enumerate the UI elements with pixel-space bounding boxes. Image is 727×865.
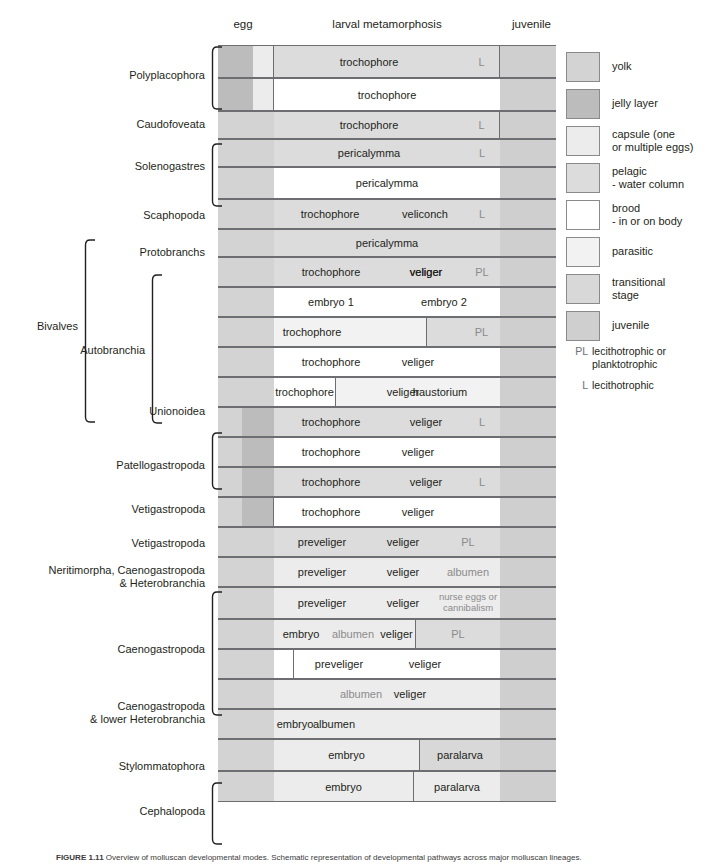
legend-item-pelagic: pelagic - water column: [566, 163, 726, 193]
chart-segment-yolk: [218, 111, 274, 139]
chart-segment-yolk: [218, 771, 274, 802]
chart-segment-capsule: albumen: [274, 679, 500, 709]
chart-segment-juvenile: [500, 407, 556, 437]
chart-segment-yolk: [218, 229, 274, 257]
chart-segment-pelagic: L: [464, 407, 500, 437]
chart-segment-jelly: [218, 78, 253, 111]
segment-label: PL: [464, 266, 500, 279]
chart-row: trochophore: [218, 78, 556, 111]
chart-segment-capsule: veliger: [378, 619, 416, 649]
segment-label: embryo 2: [388, 296, 500, 309]
segment-label: veliger: [362, 446, 474, 459]
chart-row: trochophoreL: [218, 111, 556, 139]
chart-segment-yolk: [218, 527, 274, 557]
legend-label-yolk: yolk: [612, 60, 632, 73]
legend-swatch-pelagic: [566, 163, 600, 193]
chart-segment-pelagic: pericalymma: [274, 139, 464, 167]
chart-segment-pelagic: PL: [464, 257, 500, 287]
legend-label-juvenile: juvenile: [612, 319, 649, 332]
taxon-bracket: [84, 239, 95, 423]
chart-segment-pelagic: pericalymma: [274, 229, 500, 257]
chart-segment-juvenile: [500, 679, 556, 709]
development-chart: trochophoreLtrochophoretrochophoreLperic…: [218, 45, 556, 802]
taxon-label: Vetigastropoda: [0, 537, 205, 550]
chart-row: embryoalbumenveligerPL: [218, 619, 556, 649]
segment-label: trochophore: [274, 416, 388, 429]
phase-label-larval: larval metamorphosis: [273, 18, 501, 30]
chart-segment-yolk: [218, 199, 274, 229]
legend-swatch-capsule: [566, 126, 600, 156]
chart-segment-yolk: [218, 619, 274, 649]
abbreviation-key: PL: [566, 345, 588, 357]
chart-segment-juvenile: [500, 111, 556, 139]
chart-segment-juvenile: [500, 437, 556, 467]
taxon-label: Caenogastropoda & lower Heterobranchia: [0, 700, 205, 726]
chart-segment-pelagic: PL: [426, 317, 500, 347]
segment-label: trochophore: [236, 326, 388, 339]
chart-segment-pelagic: L: [464, 111, 500, 139]
segment-label: trochophore: [274, 208, 386, 221]
chart-segment-capsule: albumen: [436, 557, 500, 587]
segment-label: trochophore: [274, 55, 464, 68]
segment-label: embryo: [274, 628, 328, 641]
chart-segment-yolk: [218, 587, 274, 619]
chart-segment-juvenile: [500, 199, 556, 229]
chart-segment-pelagic: trochophore: [274, 467, 388, 497]
chart-segment-capsule: embryo: [274, 709, 500, 739]
chart-segment-juvenile: [500, 78, 556, 111]
chart-segment-capsule: veliger: [370, 557, 436, 587]
segment-label: trochophore: [274, 386, 335, 399]
segment-label: L: [464, 476, 500, 489]
segment-label: paralarva: [414, 780, 500, 793]
chart-segment-pelagic: veliger: [388, 467, 464, 497]
chart-row: trochophorehaustoriumveliger: [218, 377, 556, 407]
abbreviation-PL: PLlecithotrophic or planktotrophic: [566, 345, 726, 371]
chart-row: embryo 1embryo 2: [218, 287, 556, 317]
chart-segment-pelagic: trochophore: [274, 407, 388, 437]
chart-segment-jelly: [242, 467, 274, 497]
chart-segment-capsule: embryo: [274, 739, 420, 771]
chart-segment-pelagic: PL: [416, 619, 500, 649]
taxon-label: Autobranchia: [0, 344, 145, 357]
chart-segment-yolk: [218, 557, 274, 587]
chart-segment-capsule: embryo: [274, 619, 328, 649]
segment-label: veliger: [370, 566, 436, 579]
chart-segment-brood: trochophore: [274, 377, 336, 407]
chart-segment-juvenile: [500, 45, 556, 78]
chart-segment-capsule: embryo: [274, 771, 414, 802]
chart-segment-jelly: [242, 437, 274, 467]
chart-segment-pelagic: L: [464, 467, 500, 497]
chart-row: trochophoreL: [218, 45, 556, 78]
chart-segment-juvenile: [500, 557, 556, 587]
chart-row: embryoalbumen: [218, 709, 556, 739]
chart-segment-juvenile: [500, 229, 556, 257]
chart-row: trochophoreveligerL: [218, 407, 556, 437]
legend-swatch-parasitic: [566, 237, 600, 267]
abbreviation-key: L: [566, 379, 588, 391]
chart-segment-brood: pericalymma: [274, 167, 500, 199]
chart-row: trochophoreveligerPLveliger: [218, 257, 556, 287]
taxon-bracket: [211, 782, 222, 845]
chart-segment-pelagic: preveliger: [274, 527, 370, 557]
taxon-bracket: [211, 46, 222, 110]
segment-label: haustorium: [358, 386, 522, 399]
chart-segment-pelagic: trochophore: [274, 45, 464, 78]
chart-row: trochophoreveliger: [218, 497, 556, 527]
phase-header: egglarval metamorphosisjuvenile: [215, 18, 560, 36]
chart-segment-parasitic: haustorium: [336, 377, 500, 407]
segment-label: trochophore: [274, 476, 388, 489]
chart-segment-brood: embryo 2: [388, 287, 500, 317]
segment-label: embryo: [182, 718, 408, 731]
chart-segment-capsule: preveliger: [274, 557, 370, 587]
taxon-label: Polyplacophora: [0, 69, 205, 82]
chart-segment-pelagic: trochophore: [274, 199, 386, 229]
chart-segment-capsule: [253, 78, 274, 111]
chart-segment-pelagic: L: [464, 199, 500, 229]
segment-label: L: [464, 416, 500, 429]
chart-row: pericalymma: [218, 229, 556, 257]
chart-segment-parasitic: trochophore: [274, 317, 426, 347]
taxon-bracket: [211, 432, 222, 490]
segment-label: paralarva: [420, 749, 500, 762]
segment-label: trochophore: [274, 266, 388, 279]
segment-label: veliger: [388, 266, 464, 279]
